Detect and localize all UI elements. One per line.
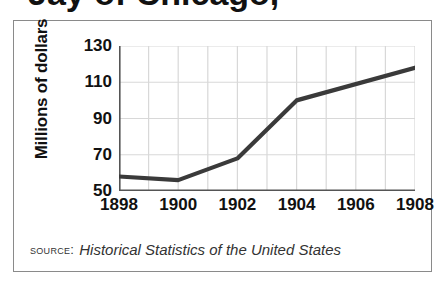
x-tick-label-1898: 1898: [100, 195, 138, 215]
x-tick-label-1906: 1906: [337, 195, 375, 215]
y-tick-label-110: 110: [85, 72, 112, 92]
y-axis-title: Millions of dollars: [32, 9, 52, 169]
x-tick-label-1902: 1902: [218, 195, 256, 215]
source-note: Source: Historical Statistics of the Uni…: [14, 227, 433, 271]
clipped-title-sliver: Jay of Chicago,: [0, 0, 445, 17]
x-tick-label-1908: 1908: [396, 195, 434, 215]
y-tick-label-130: 130: [84, 36, 112, 56]
source-title: Historical Statistics of the United Stat…: [79, 241, 341, 258]
line-chart-svg: [119, 46, 415, 191]
y-tick-label-70: 70: [93, 145, 112, 165]
clipped-title-text: Jay of Chicago,: [28, 0, 279, 13]
x-tick-label-1904: 1904: [278, 195, 316, 215]
source-label: Source:: [30, 242, 74, 257]
x-tick-label-1900: 1900: [159, 195, 197, 215]
x-axis-tick-labels: 189819001902190419061908: [119, 195, 415, 223]
figure-frame: Millions of dollars 130110907050 1898190…: [13, 20, 432, 272]
y-tick-label-90: 90: [93, 109, 112, 129]
chart-area: Millions of dollars 130110907050 1898190…: [14, 21, 433, 226]
plot-area: [119, 46, 415, 191]
